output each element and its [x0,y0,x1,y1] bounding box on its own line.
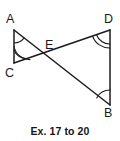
vertex-label-b: B [104,107,112,120]
geometry-diagram [0,0,120,141]
vertex-label-d: D [104,13,113,26]
angle-arc-d-2 [93,36,110,48]
vertex-label-a: A [6,13,14,26]
geometry-figure: A C E D B Ex. 17 to 20 [0,0,120,141]
angle-arc-a-1 [14,38,24,43]
angle-arc-d-1 [97,35,111,44]
vertex-label-e: E [45,39,53,52]
figure-caption: Ex. 17 to 20 [0,125,120,137]
segment-cd [14,30,110,63]
vertex-label-c: C [5,67,14,80]
